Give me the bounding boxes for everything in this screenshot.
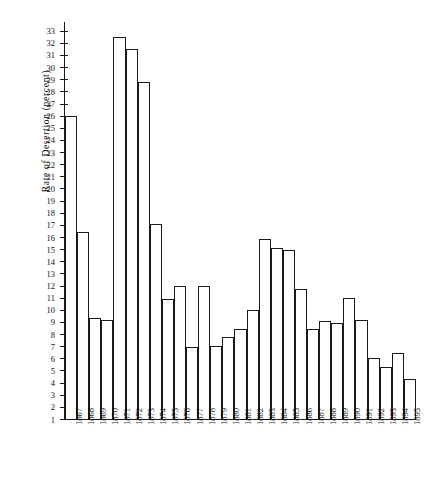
x-axis-tick-label: 1889 [341,408,350,425]
y-axis-tick-label: 15 [47,245,56,254]
x-axis-tick-label: 1880 [232,408,241,425]
y-axis-tick: 1 [60,419,68,420]
x-axis-tick-label: 1881 [244,408,253,425]
bar [259,239,271,419]
y-axis-tick-label: 19 [47,197,56,206]
y-axis-tick-label: 26 [47,112,56,121]
y-axis-tick-label: 12 [47,282,56,291]
bar [283,250,295,419]
bar [77,232,89,419]
y-axis-tick-label: 7 [51,342,55,351]
y-axis-tick-label: 18 [47,209,56,218]
bar [319,321,331,419]
y-axis-tick-label: 21 [47,173,56,182]
y-axis-tick-label: 6 [51,355,55,364]
x-axis-tick-label: 1892 [377,408,386,425]
x-axis-tick-label: 1874 [159,408,168,425]
x-axis-tick-label: 1887 [317,408,326,425]
bar [234,329,246,419]
y-axis-tick-label: 8 [51,330,55,339]
y-axis-tick-label: 4 [51,379,55,388]
x-axis-tick-label: 1891 [365,408,374,425]
bar-series [65,22,416,419]
y-axis-tick-label: 16 [47,233,56,242]
y-axis-tick-label: 33 [47,27,56,36]
y-axis-tick-label: 22 [47,160,56,169]
bar [89,318,101,419]
y-axis-tick-label: 2 [51,403,55,412]
x-axis-tick-label: 1888 [329,408,338,425]
y-axis-tick-label: 20 [47,185,56,194]
bar [222,337,234,420]
x-axis-tick-label: 1867 [75,408,84,425]
y-axis-tick-label: 9 [51,318,55,327]
x-axis-tick-label: 1885 [292,408,301,425]
y-axis-tick-label: 17 [47,221,56,230]
x-axis-tick-label: 1877 [196,408,205,425]
x-axis-tick-label: 1876 [183,408,192,425]
y-axis-tick-label: 23 [47,148,56,157]
bar [343,298,355,419]
y-axis-tick-label: 13 [47,270,56,279]
bar [331,323,343,419]
x-axis-tick-label: 1873 [147,408,156,425]
y-axis-tick-label: 11 [47,294,55,303]
y-axis-tick-label: 14 [47,258,56,267]
y-axis-tick-label: 30 [47,63,56,72]
bar [162,299,174,419]
bar [247,310,259,419]
x-axis-tick-label: 1893 [389,408,398,425]
x-axis-tick-label: 1884 [280,408,289,425]
x-axis-tick-label: 1886 [305,408,314,425]
bar [307,329,319,419]
bar [138,82,150,419]
y-axis-tick-label: 27 [47,100,56,109]
bar [126,49,138,419]
y-axis-tick-label: 31 [47,51,56,60]
x-axis-tick-label: 1890 [353,408,362,425]
bar [174,286,186,419]
y-axis-tick-label: 5 [51,367,55,376]
bar [113,37,125,419]
y-axis-tick-label: 28 [47,88,56,97]
x-axis-tick-label: 1868 [87,408,96,425]
y-axis-tick-label: 10 [47,306,56,315]
bar [101,320,113,420]
bar [198,286,210,419]
y-axis-tick-label: 3 [51,391,55,400]
x-axis-tick-label: 1869 [99,408,108,425]
x-axis-tick-label: 1882 [256,408,265,425]
bar [65,116,77,419]
x-axis-tick-label: 1883 [268,408,277,425]
y-axis-tick-label: 29 [47,76,56,85]
x-axis-tick-label: 1894 [401,408,410,425]
bar [355,320,367,420]
bar [150,224,162,419]
x-axis-tick-label: 1879 [220,408,229,425]
x-axis-tick-labels: 1867186818691870187118721873187418751876… [65,421,416,491]
plot-area: 1234567891011121314151617181920212223242… [64,22,416,420]
x-axis-tick-label: 1870 [111,408,120,425]
desertion-rate-bar-chart: Rate of Desertion (percent) 123456789101… [0,0,444,493]
x-axis-tick-label: 1872 [135,408,144,425]
y-axis-tick-label: 25 [47,124,56,133]
bar [271,248,283,419]
x-axis-tick-label: 1871 [123,408,132,425]
x-axis-tick-label: 1875 [171,408,180,425]
x-axis-tick-label: 1895 [413,408,422,425]
y-axis-tick-label: 32 [47,39,56,48]
x-axis-tick-label: 1878 [208,408,217,425]
bar [295,289,307,419]
y-axis-tick-label: 24 [47,136,56,145]
y-axis-tick-label: 1 [51,415,55,424]
